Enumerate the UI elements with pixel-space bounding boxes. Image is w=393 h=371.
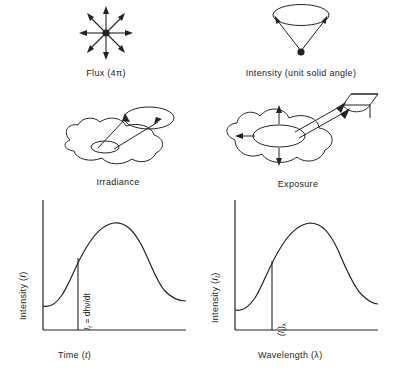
x-axis-label-left-chart: Time (t) — [58, 350, 91, 360]
chart-plot-area — [228, 198, 378, 343]
panel-intensity — [268, 2, 334, 60]
y-axis-label-left-chart: Intensity (I) — [18, 272, 28, 320]
curve-intensity-time — [43, 223, 186, 307]
y-axis-symbol: I — [210, 278, 220, 281]
curve-intensity-wavelength — [235, 223, 378, 311]
chart-plot-area — [36, 198, 186, 343]
annotation-it-equation: It = dhν/dt — [82, 293, 93, 330]
annotation-sub: t — [86, 326, 93, 328]
panel-exposure — [215, 92, 390, 174]
y-axis-label-text: Intensity — [210, 287, 220, 323]
annotation-it-lambda: (It)λ — [276, 323, 287, 336]
chart-intensity-vs-wavelength — [228, 198, 378, 343]
radiating-arrows-point-source-icon — [68, 2, 144, 64]
cone-solid-angle-icon — [268, 2, 334, 60]
x-axis-label-text: Time — [58, 350, 79, 360]
annotation-rhs: = dhν/dt — [82, 293, 92, 323]
x-axis-label-right-chart: Wavelength (λ) — [258, 350, 322, 360]
y-axis-symbol: I — [18, 275, 28, 278]
surface-to-ellipse-arrows-icon — [52, 102, 180, 172]
caption-flux: Flux (4π) — [46, 68, 166, 78]
annotation-lhs: (I — [276, 331, 286, 336]
x-axis-symbol: t — [85, 350, 88, 360]
panel-irradiance — [52, 102, 180, 172]
y-axis-label-right-chart: Intensity (It) — [210, 272, 221, 323]
panel-flux — [68, 2, 144, 64]
x-axis-label-text: Wavelength — [258, 350, 308, 360]
caption-exposure: Exposure — [258, 179, 338, 189]
caption-intensity: Intensity (unit solid angle) — [231, 68, 371, 78]
y-axis-label-text: Intensity — [18, 284, 28, 320]
annotation-sub: t — [280, 329, 287, 331]
radiometry-figure: Flux (4π) Intensity (unit solid angle) I… — [0, 0, 393, 371]
chart-intensity-vs-time — [36, 198, 186, 343]
x-axis-symbol: λ — [314, 350, 319, 360]
annotation-rhs: ) — [276, 326, 286, 329]
annotation-sub2: λ — [280, 323, 287, 326]
caption-irradiance: Irradiance — [78, 177, 158, 187]
surface-detector-beam-icon — [215, 92, 390, 174]
y-axis-subscript: t — [214, 276, 221, 278]
